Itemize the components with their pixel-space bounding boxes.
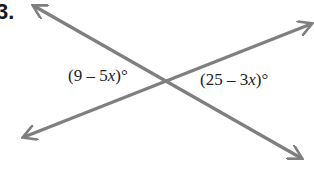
angle-label-left: (9 – 5x)° (68, 66, 128, 86)
diagram: 3. (9 – 5x)° (25 – 3x)° (0, 0, 314, 187)
intersecting-lines (0, 0, 314, 187)
angle-label-right: (25 – 3x)° (200, 70, 268, 90)
